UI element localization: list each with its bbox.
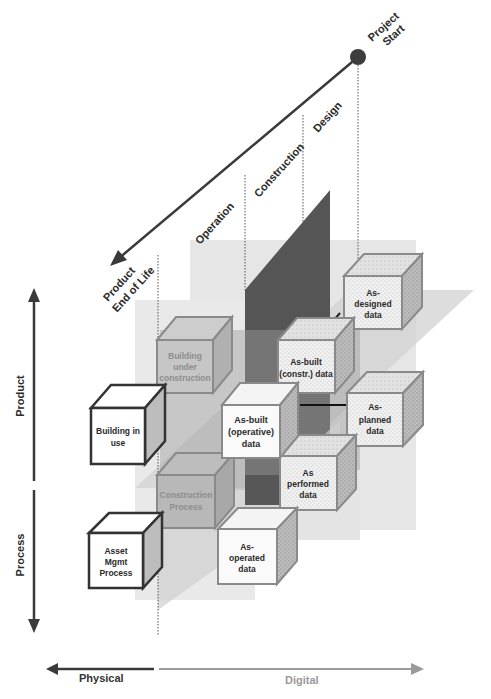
- svg-text:As-built: As-built: [290, 357, 322, 367]
- svg-text:As-: As-: [368, 402, 382, 412]
- svg-text:Process: Process: [169, 502, 202, 512]
- svg-text:data: data: [366, 426, 384, 436]
- phase-label-construction: Construction: [252, 140, 307, 199]
- arrow-down-icon: [28, 619, 40, 633]
- project-start-dot-icon: [350, 49, 366, 65]
- process-axis-label: Process: [14, 534, 26, 577]
- svg-text:planned: planned: [359, 415, 392, 425]
- phase-label-design: Design: [311, 99, 345, 134]
- svg-text:Construction: Construction: [160, 490, 213, 500]
- cube-as-built-constr-data[interactable]: As-built (constr.) data: [278, 318, 354, 393]
- svg-text:Design: Design: [311, 99, 345, 134]
- svg-text:designed: designed: [354, 299, 391, 309]
- svg-text:data: data: [242, 439, 262, 449]
- svg-text:As-: As-: [366, 288, 380, 298]
- cube-asset-mgmt-process[interactable]: Asset Mgmt Process: [89, 513, 162, 588]
- svg-text:As-built: As-built: [234, 415, 268, 425]
- cube-as-built-operative-data[interactable]: As-built (operative) data: [222, 383, 298, 458]
- horizontal-axis: Physical Digital: [46, 663, 424, 686]
- digital-twin-lifecycle-diagram: Project Start Design Construction Operat…: [0, 0, 491, 699]
- arrow-right-icon: [411, 663, 424, 675]
- svg-text:use: use: [111, 438, 126, 448]
- svg-text:Building in: Building in: [96, 426, 140, 436]
- cube-building-in-use[interactable]: Building in use: [91, 385, 165, 464]
- cube-as-designed-data[interactable]: As- designed data: [344, 254, 422, 329]
- svg-text:under: under: [173, 362, 197, 372]
- vertical-axis: Product Process: [14, 288, 40, 633]
- svg-text:Process: Process: [99, 568, 132, 578]
- svg-text:data: data: [299, 490, 317, 500]
- svg-text:data: data: [364, 310, 382, 320]
- cube-as-performed-data[interactable]: As performed data: [280, 435, 356, 510]
- project-start-label: Project Start: [365, 9, 410, 53]
- cube-as-planned-data[interactable]: As- planned data: [347, 372, 423, 446]
- svg-text:Building: Building: [168, 351, 202, 361]
- cube-as-operated-data[interactable]: As- operated data: [218, 508, 297, 584]
- svg-text:(operative): (operative): [228, 427, 274, 437]
- svg-text:As-: As-: [240, 542, 254, 552]
- svg-text:Construction: Construction: [252, 140, 307, 199]
- product-axis-label: Product: [14, 375, 26, 417]
- svg-text:Operation: Operation: [193, 199, 237, 246]
- svg-text:data: data: [238, 564, 256, 574]
- svg-text:Mgmt: Mgmt: [105, 557, 128, 567]
- svg-text:operated: operated: [229, 553, 265, 563]
- phase-label-operation: Operation: [193, 199, 237, 246]
- svg-text:As: As: [303, 468, 314, 478]
- svg-text:Asset: Asset: [104, 546, 127, 556]
- svg-text:construction: construction: [159, 373, 210, 383]
- svg-text:(constr.) data: (constr.) data: [279, 369, 333, 379]
- arrow-up-icon: [28, 288, 40, 302]
- cube-building-under-construction[interactable]: Building under construction: [157, 317, 232, 393]
- physical-axis-label: Physical: [79, 672, 124, 684]
- svg-text:performed: performed: [287, 479, 329, 489]
- arrow-left-icon: [46, 663, 58, 675]
- digital-axis-label: Digital: [285, 674, 319, 686]
- cube-construction-process[interactable]: Construction Process: [157, 453, 234, 528]
